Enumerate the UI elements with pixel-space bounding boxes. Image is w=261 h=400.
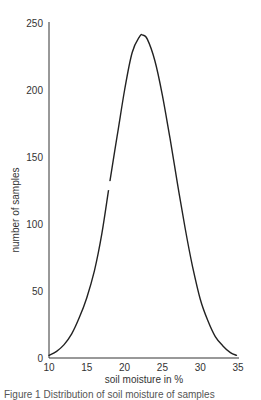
y-tick-label: 250 [26,18,43,29]
distribution-curve [49,34,237,355]
x-tick-labels: 101520253035 [43,362,244,373]
figure-caption: Figure 1 Distribution of soil moisture o… [4,389,215,400]
x-tick-label: 30 [195,362,207,373]
y-tick-label: 150 [26,152,43,163]
x-axis-title: soil moisture in % [105,374,183,385]
y-tick-label: 200 [26,85,43,96]
x-tick-label: 15 [81,362,93,373]
x-tick-label: 20 [119,362,131,373]
y-tick-label: 100 [26,219,43,230]
x-tick-label: 35 [232,362,244,373]
x-tick-label: 10 [43,362,55,373]
y-axis-title: number of samples [10,167,21,252]
x-tick-label: 25 [157,362,169,373]
y-tick-label: 50 [32,286,44,297]
y-tick-labels: 050100150200250 [26,18,43,364]
curve-gap [106,181,111,190]
